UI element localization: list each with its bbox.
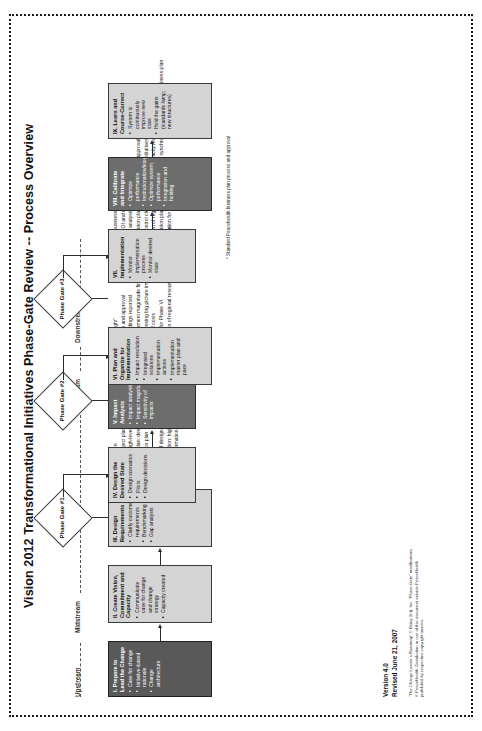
- stage-box-9[interactable]: IX. Learn and Course-Correct System to c…: [108, 83, 212, 139]
- stage-9-bullets: System to continuously improve new state…: [127, 88, 172, 134]
- connector-2-3-arrow: [158, 548, 162, 552]
- stage-4-bullet-3: Design decisions: [142, 452, 148, 498]
- stage-4-bullet-1: Design scenarios: [127, 452, 133, 498]
- page-title: Vision 2012 Transformational Initiatives…: [22, 21, 36, 711]
- stage-4-bullet-2: Pilots: [135, 452, 141, 498]
- lane-divider-mid2: [80, 347, 81, 371]
- connector-4-5: [152, 433, 153, 447]
- version-number: Version 4.0: [382, 629, 391, 697]
- stage-6-bullet-1: Impact resolution: [134, 332, 140, 380]
- stage-2-bullet-1: Communicate case for change and change s…: [134, 570, 159, 618]
- gate-1-label: Phase Gate #1: [42, 497, 84, 539]
- gate-2-label: Phase Gate #2: [42, 380, 84, 422]
- connector-7-8-arrow: [150, 212, 154, 216]
- stage-9-title: IX. Learn and Course-Correct: [112, 88, 125, 134]
- stage-9-bullet-1: System to continuously improve new state: [127, 88, 152, 134]
- stage-6-title: VI. Plan and Organize for Implementation: [112, 332, 132, 380]
- gate-3[interactable]: Phase Gate #3: [42, 278, 84, 320]
- stage-2-bullet-2: Capacity created: [160, 570, 166, 618]
- stage-2-bullets: Communicate case for change and change s…: [134, 570, 166, 618]
- stage-8-bullets: Optimize performance Institutionalize/in…: [127, 162, 174, 206]
- stage-6-bullet-3: Implementation actions: [155, 332, 167, 380]
- footnote: * Standard Peacehealth business plan pro…: [226, 135, 232, 258]
- stage-1-title: I. Prepare to Lead the Change: [112, 646, 125, 692]
- stage-8-bullet-4: Integration and holding: [162, 162, 174, 206]
- stage-2-title: II. Create Vision, Commitment and Capaci…: [112, 570, 132, 618]
- diagram-stage: Vision 2012 Transformational Initiatives…: [16, 21, 466, 711]
- gate-1[interactable]: Phase Gate #1: [42, 497, 84, 539]
- gate-3-label: Phase Gate #3: [42, 278, 84, 320]
- stage-box-7[interactable]: VII. Implementation Monitor implementati…: [108, 229, 196, 283]
- lane-divider-left: [80, 643, 81, 697]
- connector-gate1-4: [63, 475, 64, 497]
- stage-4-bullets: Design scenarios Pilots Design decisions: [127, 452, 148, 498]
- connector-gate3-7: [63, 256, 64, 278]
- stage-box-4[interactable]: IV. Design the Desired State Design scen…: [108, 447, 196, 503]
- version-block: Version 4.0 Revised June 21, 2007: [382, 629, 399, 697]
- stage-1-bullet-1: Case for change: [127, 646, 133, 692]
- stage-1-bullets: Case for change Initiative-based rationa…: [127, 646, 160, 692]
- stage-6-bullet-2: Integrated solutions: [142, 332, 154, 380]
- connector-3-gate1-v: [92, 517, 108, 518]
- connector-gate3-7-v: [63, 255, 108, 256]
- connector-1-2-arrow: [158, 624, 162, 628]
- stage-9-bullet-2: Hold the gains (standards /amp; new stru…: [153, 88, 172, 134]
- stage-1-bullet-3: Change architecture: [148, 646, 160, 692]
- stage-box-2[interactable]: II. Create Vision, Commitment and Capaci…: [108, 565, 212, 623]
- stage-8-bullet-3: Optimize system performance: [148, 162, 160, 206]
- connector-1-2: [160, 627, 161, 641]
- copyright-notice: “The Change Leader’s Roadmap” © Being (I…: [408, 547, 425, 697]
- stage-box-6[interactable]: VI. Plan and Organize for Implementation…: [108, 327, 212, 385]
- stage-7-title: VII. Implementation: [112, 234, 125, 278]
- gate-2[interactable]: Phase Gate #2: [42, 380, 84, 422]
- stage-8-title: VIII. Calibrate and Integrate: [112, 162, 125, 206]
- stage-7-bullets: Monitor implementation process Monitor d…: [127, 234, 159, 278]
- connector-8-9-arrow: [150, 140, 154, 144]
- connector-gate1-4-v: [63, 474, 108, 475]
- connector-7-8: [152, 215, 153, 229]
- connector-2-3: [160, 551, 161, 565]
- stage-6-bullets: Impact resolution Integrated solutions I…: [134, 332, 187, 380]
- stage-7-bullet-1: Monitor implementation process: [127, 234, 146, 278]
- connector-8-9: [152, 143, 153, 157]
- connector-5-gate2-v: [92, 400, 108, 401]
- lane-label-midstream-1: Midstream: [74, 601, 81, 633]
- connector-gate2-6-v: [63, 355, 108, 356]
- diagram-canvas: Vision 2012 Transformational Initiatives…: [16, 21, 466, 711]
- stage-8-bullet-2: Institutionalize/integrate: [141, 162, 147, 206]
- stage-box-8[interactable]: VIII. Calibrate and Integrate Optimize p…: [108, 157, 212, 211]
- connector-gate2-6: [63, 356, 64, 380]
- stage-6-bullet-4: Implementation master plan and pace: [169, 332, 188, 380]
- stage-box-1[interactable]: I. Prepare to Lead the Change Case for c…: [108, 641, 212, 697]
- connector-6-gate3-v: [92, 298, 108, 299]
- diagram-rotation-wrapper: Vision 2012 Transformational Initiatives…: [0, 0, 482, 731]
- version-revised-date: Revised June 21, 2007: [391, 629, 400, 697]
- stage-4-title: IV. Design the Desired State: [112, 452, 125, 498]
- connector-4-5-arrow: [150, 430, 154, 434]
- stage-7-bullet-2: Monitor desired state: [147, 234, 159, 278]
- stage-1-bullet-2: Initiative-based rationale: [135, 646, 147, 692]
- stage-8-bullet-1: Optimize performance: [127, 162, 139, 206]
